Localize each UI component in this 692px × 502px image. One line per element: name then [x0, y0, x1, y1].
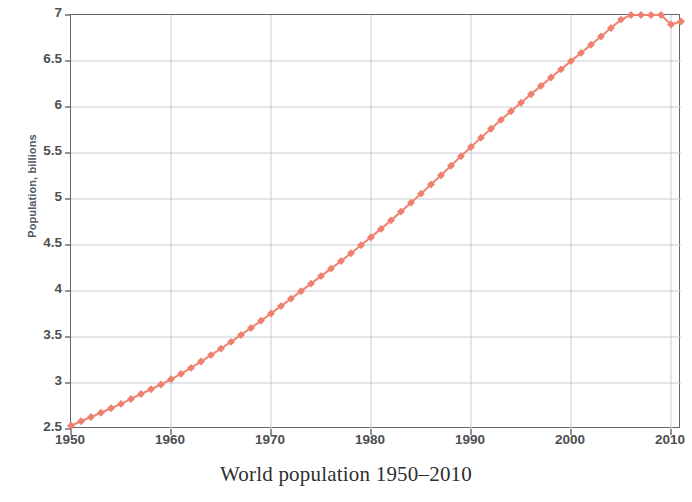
data-point-marker: [127, 395, 135, 403]
y-tick-label: 5.5: [0, 143, 62, 158]
data-point-marker: [627, 11, 635, 19]
chart-figure: Population, billions 76.565.554.543.532.…: [0, 0, 692, 502]
y-tick-label: 5: [0, 189, 62, 204]
data-point-marker: [157, 381, 165, 389]
y-tick-label: 3.5: [0, 327, 62, 342]
plot-area: [70, 14, 680, 428]
data-point-marker: [637, 11, 645, 19]
y-tick-label: 4: [0, 281, 62, 296]
data-point-marker: [677, 17, 685, 25]
data-point-marker: [97, 409, 105, 417]
x-tick-label: 2000: [535, 432, 605, 447]
data-point-marker: [117, 400, 125, 408]
figure-caption: World population 1950–2010: [0, 462, 692, 487]
y-tick-label: 6.5: [0, 51, 62, 66]
y-tick-label: 6: [0, 97, 62, 112]
y-axis-title: Population, billions: [26, 86, 38, 286]
x-tick-label: 2010: [635, 432, 692, 447]
data-point-marker: [107, 404, 115, 412]
data-series-world-population: [71, 15, 681, 429]
y-tick-label: 7: [0, 5, 62, 20]
y-tick-label: 4.5: [0, 235, 62, 250]
x-tick-label: 1990: [435, 432, 505, 447]
x-tick-label: 1960: [135, 432, 205, 447]
data-point-marker: [137, 390, 145, 398]
x-tick-label: 1980: [335, 432, 405, 447]
data-point-marker: [147, 385, 155, 393]
data-point-marker: [77, 417, 85, 425]
data-point-marker: [167, 375, 175, 383]
data-point-marker: [647, 11, 655, 19]
data-point-marker: [87, 413, 95, 421]
series-line: [71, 15, 681, 426]
y-tick-label: 3: [0, 373, 62, 388]
x-tick-label: 1970: [235, 432, 305, 447]
x-tick-label: 1950: [35, 432, 105, 447]
